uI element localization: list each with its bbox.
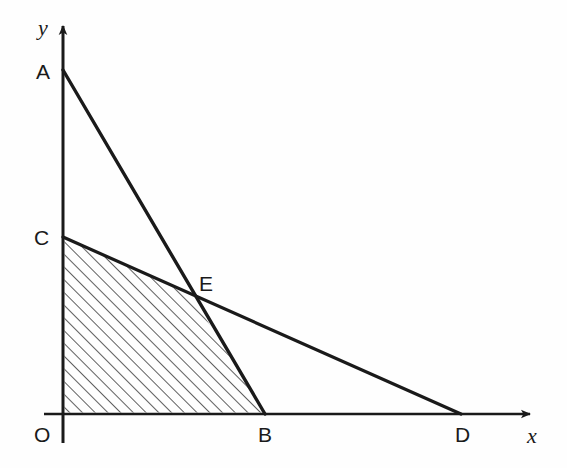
point-label-A: A [36, 61, 50, 82]
point-label-B: B [258, 424, 272, 445]
shaded-region-OCEB [65, 238, 265, 413]
point-label-O: O [34, 424, 50, 445]
point-label-E: E [199, 273, 213, 294]
y-axis-label: y [38, 17, 48, 39]
x-axis-label: x [527, 425, 537, 447]
point-label-D: D [455, 424, 470, 445]
point-label-C: C [34, 227, 49, 248]
geometry-diagram: A C O B D E y x [0, 0, 567, 468]
diagram-canvas [0, 0, 567, 468]
